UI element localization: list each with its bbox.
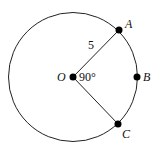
radius-oc <box>73 77 118 124</box>
point-c <box>115 121 122 128</box>
angle-label: 90° <box>79 70 96 84</box>
radius-label: 5 <box>88 38 94 52</box>
point-b <box>134 74 141 81</box>
label-o: O <box>57 70 66 84</box>
label-b: B <box>143 70 151 84</box>
circle-diagram: O A B C 5 90° <box>0 0 160 148</box>
point-o <box>70 74 77 81</box>
label-a: A <box>124 17 133 31</box>
point-a <box>116 27 123 34</box>
label-c: C <box>122 127 131 141</box>
